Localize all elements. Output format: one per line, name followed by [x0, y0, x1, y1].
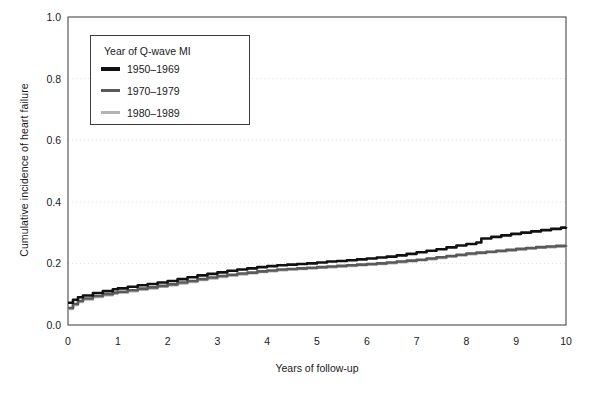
legend-entry-1: 1950–1969 — [101, 62, 246, 76]
legend-swatch-icon — [101, 111, 120, 114]
legend-swatch-icon — [101, 89, 120, 92]
legend: Year of Q-wave MI 1950–19691970–19791980… — [90, 35, 250, 125]
series-line-1970-1979 — [68, 245, 566, 308]
series-line-1980-1989 — [68, 246, 566, 309]
legend-title: Year of Q-wave MI — [104, 45, 191, 57]
legend-swatch-icon — [101, 67, 120, 71]
series-line-1950-1969 — [68, 227, 566, 303]
legend-label: 1950–1969 — [127, 62, 180, 76]
legend-entry-2: 1970–1979 — [101, 84, 246, 98]
legend-label: 1980–1989 — [127, 106, 180, 120]
data-series-group — [68, 227, 566, 309]
chart-figure: Cumulative incidence of heart failure 0.… — [0, 0, 598, 394]
legend-label: 1970–1979 — [127, 84, 180, 98]
legend-entry-3: 1980–1989 — [101, 106, 246, 120]
